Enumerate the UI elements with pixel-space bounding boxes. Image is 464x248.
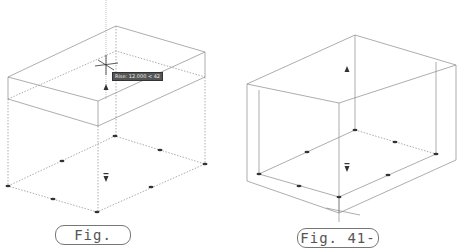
grip-icon[interactable] [51, 198, 56, 200]
arrow-down-grip-icon[interactable] [345, 166, 350, 172]
box-bottom-edge [8, 77, 205, 126]
arrow-up-grip-icon[interactable] [345, 66, 350, 72]
grip-icon[interactable] [113, 135, 118, 137]
figure-label-41-9: Fig. 41-9 [55, 225, 131, 245]
grip-icon[interactable] [353, 129, 358, 131]
dynamic-input-tooltip: Rise: 12.000 < 42 [112, 72, 163, 81]
figure-41-10-drawing [247, 35, 456, 222]
arrow-down-grip-icon[interactable] [345, 163, 350, 164]
grip-icon[interactable] [95, 211, 100, 213]
arrow-up-grip-icon[interactable] [104, 84, 109, 90]
box-top-face [247, 35, 456, 103]
grip-icon[interactable] [203, 163, 208, 165]
grip-icon[interactable] [393, 141, 398, 143]
grip-icon[interactable] [6, 185, 11, 187]
cursor-horizontal-line [326, 208, 360, 215]
grip-icon[interactable] [257, 173, 262, 175]
grip-icon[interactable] [337, 196, 342, 198]
grip-icon[interactable] [60, 160, 65, 162]
grip-icon[interactable] [158, 149, 163, 151]
grip-icon[interactable] [297, 185, 302, 187]
arrow-down-grip-icon[interactable] [104, 173, 109, 174]
box-bottom-edge [247, 160, 456, 213]
grip-icon[interactable] [149, 186, 154, 188]
arrow-down-grip-icon[interactable] [104, 176, 109, 182]
grip-icon[interactable] [305, 151, 310, 153]
hidden-edge [8, 51, 205, 99]
base-edge [259, 154, 436, 197]
drawing-canvas [0, 0, 464, 248]
figure-label-41-10: Fig. 41-10 [297, 228, 379, 248]
grip-icon[interactable] [434, 153, 439, 155]
grip-icon[interactable] [386, 174, 391, 176]
grips [257, 66, 439, 198]
